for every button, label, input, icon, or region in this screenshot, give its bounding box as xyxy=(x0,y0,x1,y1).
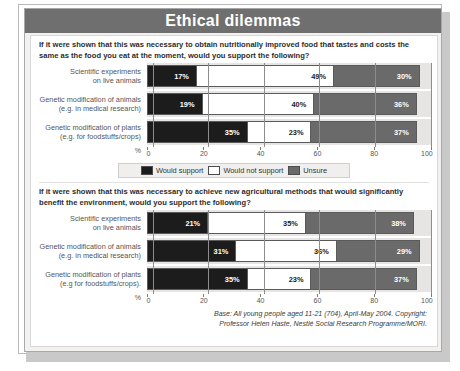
axis-tick-label: 100 xyxy=(421,150,433,157)
chart-2-track-1: 31% 36% 29% xyxy=(147,238,431,264)
chart-2-category-2: Genetic modification of plants (e.g for … xyxy=(37,266,147,292)
axis-tick-label: 40 xyxy=(257,150,265,157)
bar-value-label: 29% xyxy=(397,247,419,256)
axis-tick-label: 60 xyxy=(313,150,321,157)
chart-1-row-0: Scientific experiments on live animals 1… xyxy=(37,63,431,89)
axis-tick-label: 0 xyxy=(147,297,151,304)
chart-1-category-2: Genetic modification of plants (e.g. for… xyxy=(37,119,147,145)
chart-2-row-1: Genetic modification of animals (e.g. in… xyxy=(37,238,431,264)
category-label-line1: Genetic modification of plants xyxy=(45,270,141,279)
chart-1-bar-1: 19% 40% 36% xyxy=(147,93,417,115)
chart-1-category-1: Genetic modification of animals (e.g. in… xyxy=(37,91,147,117)
bar-value-label: 21% xyxy=(185,219,207,228)
bar-segment-would-not-support: 23% xyxy=(247,122,312,142)
axis-tick-label: 80 xyxy=(370,150,378,157)
bar-value-label: 36% xyxy=(314,247,336,256)
category-label-line2: (e.g. in medical research) xyxy=(59,251,141,260)
axis-percent-symbol: % xyxy=(37,294,147,307)
chart-1-bar-2: 35% 23% 37% xyxy=(147,121,417,143)
chart-2-row-0: Scientific experiments on live animals 2… xyxy=(37,210,431,236)
bar-segment-would-support: 21% xyxy=(148,213,207,233)
chart-2-bar-1: 31% 36% 29% xyxy=(147,240,420,262)
chart-2-axis: % 020406080100 xyxy=(37,294,431,307)
bar-value-label: 30% xyxy=(397,72,419,81)
axis-tick-label: 20 xyxy=(200,297,208,304)
category-label-line2: (e.g. for foodstuffs/crops) xyxy=(60,132,141,141)
bar-segment-would-support: 35% xyxy=(148,269,247,289)
bar-segment-unsure: 30% xyxy=(334,66,419,86)
bar-value-label: 23% xyxy=(289,128,311,137)
chart-2-category-0: Scientific experiments on live animals xyxy=(37,210,147,236)
chart-2-row-2: Genetic modification of plants (e.g for … xyxy=(37,266,431,292)
chart-1-legend: Would support Would not support Unsure xyxy=(118,163,350,178)
bar-segment-would-not-support: 23% xyxy=(247,269,312,289)
legend-swatch-icon xyxy=(141,166,153,175)
bar-value-label: 40% xyxy=(292,100,314,109)
legend-item-would-support: Would support xyxy=(141,166,204,175)
category-label-line1: Scientific experiments xyxy=(70,214,141,223)
chart-1-row-2: Genetic modification of plants (e.g. for… xyxy=(37,119,431,145)
legend-item-would-not-support: Would not support xyxy=(208,166,283,175)
page-root: Ethical dilemmas If it were shown that t… xyxy=(0,0,460,371)
bar-value-label: 23% xyxy=(289,275,311,284)
chart-1-bar-0: 17% 49% 30% xyxy=(147,65,420,87)
chart-1-track-2: 35% 23% 37% xyxy=(147,119,431,145)
footnote-line-1: Base: All young people aged 11-21 (704),… xyxy=(31,309,427,319)
category-label-line1: Scientific experiments xyxy=(70,67,141,76)
bar-segment-unsure: 37% xyxy=(311,269,415,289)
chart-2-category-1: Genetic modification of animals (e.g. in… xyxy=(37,238,147,264)
axis-tick-label: 100 xyxy=(421,297,433,304)
chart-2-bar-0: 21% 35% 38% xyxy=(147,212,414,234)
legend-swatch-icon xyxy=(288,166,300,175)
bar-value-label: 35% xyxy=(225,128,247,137)
chart-1-axis-scale: 020406080100 xyxy=(147,147,431,160)
legend-item-unsure: Unsure xyxy=(288,166,327,175)
chart-1-track-0: 17% 49% 30% xyxy=(147,63,431,89)
axis-tick-label: 40 xyxy=(257,297,265,304)
axis-tick-label: 0 xyxy=(147,150,151,157)
legend-swatch-icon xyxy=(208,166,220,175)
chart-1-category-0: Scientific experiments on live animals xyxy=(37,63,147,89)
chart-2: Scientific experiments on live animals 2… xyxy=(37,210,431,307)
bar-value-label: 17% xyxy=(174,72,196,81)
bar-value-label: 35% xyxy=(283,219,305,228)
category-label-line1: Genetic modification of plants xyxy=(45,123,141,132)
bar-segment-unsure: 38% xyxy=(306,213,413,233)
category-label-line2: on live animals xyxy=(93,223,141,232)
bar-segment-would-support: 17% xyxy=(148,66,196,86)
page-title: Ethical dilemmas xyxy=(25,9,441,33)
bar-segment-would-not-support: 49% xyxy=(196,66,334,86)
section-question-2: If it were shown that this was necessary… xyxy=(31,183,437,210)
content-sheet: If it were shown that this was necessary… xyxy=(30,35,438,347)
bar-value-label: 38% xyxy=(391,219,413,228)
chart-2-bar-2: 35% 23% 37% xyxy=(147,268,417,290)
legend-label: Would not support xyxy=(223,166,283,175)
chart-1-row-1: Genetic modification of animals (e.g. in… xyxy=(37,91,431,117)
bar-segment-would-not-support: 40% xyxy=(202,94,315,114)
axis-tick-label: 60 xyxy=(313,297,321,304)
bar-value-label: 37% xyxy=(394,275,416,284)
legend-label: Would support xyxy=(156,166,204,175)
chart-1-axis: % 020406080100 xyxy=(37,147,431,160)
bar-value-label: 37% xyxy=(394,128,416,137)
bar-value-label: 36% xyxy=(394,100,416,109)
bar-segment-would-support: 35% xyxy=(148,122,247,142)
bar-segment-unsure: 29% xyxy=(337,241,419,261)
bar-segment-would-support: 19% xyxy=(148,94,202,114)
footnote-line-2: Professor Helen Haste, Nestlé Social Res… xyxy=(31,319,427,329)
category-label-line1: Genetic modification of animals xyxy=(40,95,141,104)
bar-value-label: 35% xyxy=(225,275,247,284)
category-label-line2: (e.g for foodstuffs/crops). xyxy=(60,279,141,288)
axis-percent-symbol: % xyxy=(37,147,147,160)
chart-1: Scientific experiments on live animals 1… xyxy=(37,63,431,160)
chart-panel: Ethical dilemmas If it were shown that t… xyxy=(24,8,442,352)
legend-label: Unsure xyxy=(303,166,327,175)
bar-segment-would-not-support: 36% xyxy=(235,241,336,261)
section-question-1: If it were shown that this was necessary… xyxy=(31,36,437,63)
bar-value-label: 19% xyxy=(180,100,202,109)
bar-value-label: 31% xyxy=(214,247,236,256)
bar-segment-would-support: 31% xyxy=(148,241,235,261)
axis-tick-label: 20 xyxy=(200,150,208,157)
chart-2-axis-scale: 020406080100 xyxy=(147,294,431,307)
bar-value-label: 49% xyxy=(311,72,333,81)
